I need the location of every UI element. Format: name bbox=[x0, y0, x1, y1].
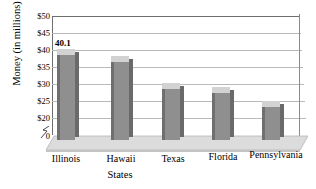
bar-value-label-illinois: 40.1 bbox=[55, 38, 71, 48]
bar-front-face bbox=[212, 93, 230, 140]
x-tick-label-pennsylvania: Pennsylvania bbox=[237, 149, 315, 160]
bar-front-face bbox=[57, 55, 75, 140]
x-axis-title-text: States bbox=[107, 169, 132, 180]
bar-texas[interactable] bbox=[162, 83, 180, 140]
x-axis-title: States bbox=[0, 169, 316, 180]
y-tick-label: $40 bbox=[37, 46, 50, 55]
bar-illinois[interactable] bbox=[57, 49, 75, 140]
y-tick-label: $50 bbox=[37, 12, 50, 21]
x-tick-label-illinois: Illinois bbox=[38, 153, 94, 164]
y-tick-label: $20 bbox=[37, 114, 50, 123]
x-tick-label-hawaii: Hawaii bbox=[93, 153, 149, 164]
bar-hawaii[interactable] bbox=[111, 56, 129, 140]
bar-front-face bbox=[111, 62, 129, 140]
y-tick-label: $25 bbox=[37, 97, 50, 106]
bar-side-face bbox=[129, 59, 133, 137]
bar-front-face bbox=[162, 89, 180, 140]
bar-side-face bbox=[75, 52, 79, 137]
grid-line bbox=[52, 16, 300, 17]
grid-line bbox=[52, 33, 301, 34]
bar-front-face bbox=[262, 107, 280, 140]
y-tick-label: $35 bbox=[37, 63, 50, 72]
x-tick-label-texas: Texas bbox=[145, 153, 201, 164]
grid-line bbox=[52, 67, 303, 68]
plot-right-border bbox=[299, 14, 300, 137]
bar-florida[interactable] bbox=[212, 87, 230, 140]
bar-side-face bbox=[230, 90, 234, 137]
y-tick-label: $30 bbox=[37, 80, 50, 89]
grid-line bbox=[52, 50, 302, 51]
bar-pennsylvania[interactable] bbox=[262, 101, 280, 140]
bar-side-face bbox=[180, 86, 184, 137]
y-tick-label: $45 bbox=[37, 29, 50, 38]
bar-side-face bbox=[280, 104, 284, 137]
bar-chart: Money (in millions) $50 $45 $40 $35 $30 … bbox=[0, 0, 316, 189]
